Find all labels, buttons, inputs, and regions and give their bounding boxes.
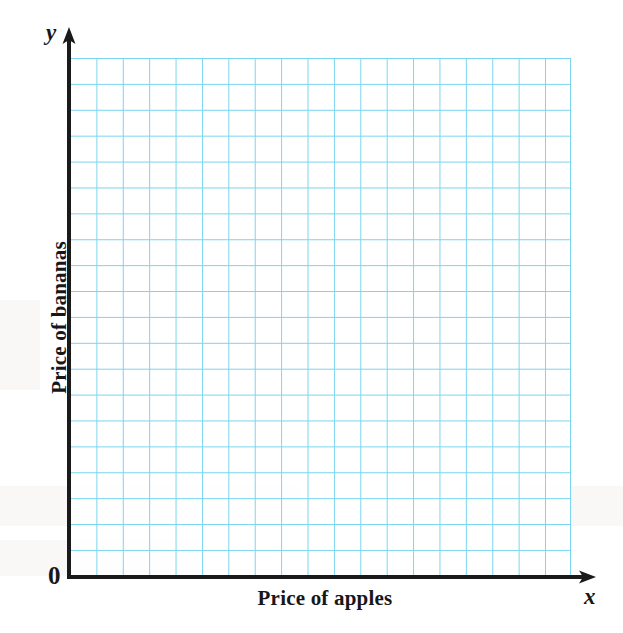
plot-grid (70, 58, 571, 576)
x-axis-title: Price of apples (190, 586, 460, 611)
y-axis-variable-label: y (46, 20, 56, 46)
x-axis-variable-label: x (584, 584, 596, 610)
x-axis-arrowhead (579, 571, 596, 584)
plot-grid-right-edge (570, 58, 571, 577)
y-axis-title: Price of bananas (47, 183, 72, 453)
origin-label: 0 (48, 562, 61, 590)
plot-grid-bottom-edge (70, 576, 571, 577)
y-axis-arrowhead (63, 27, 76, 44)
graph-figure: y x 0 Price of apples Price of bananas (0, 0, 623, 633)
scan-artifact (0, 300, 40, 390)
